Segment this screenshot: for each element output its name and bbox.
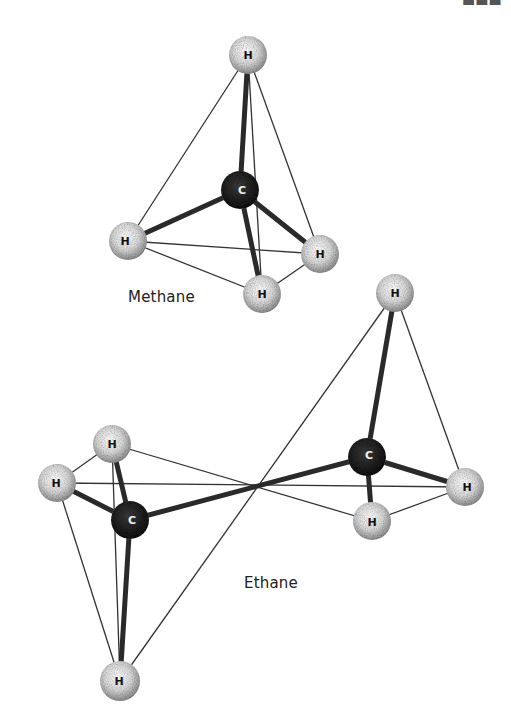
hydrogen-atom: H	[353, 502, 391, 540]
svg-text:H: H	[390, 287, 399, 300]
svg-text:C: C	[238, 184, 246, 197]
svg-text:H: H	[107, 438, 116, 451]
methane-label: Methane	[128, 288, 195, 306]
hydrogen-atom: H	[100, 661, 140, 701]
ethane-label: Ethane	[244, 574, 298, 592]
methane-molecule: C H H H H	[109, 36, 339, 313]
carbon-atom: C	[221, 171, 259, 209]
svg-text:H: H	[120, 235, 129, 248]
methane-atoms: C H H H H	[109, 36, 339, 313]
svg-text:C: C	[128, 514, 136, 527]
svg-text:H: H	[51, 477, 60, 490]
molecule-diagram: C H H H H	[0, 0, 511, 725]
svg-text:H: H	[462, 481, 471, 494]
svg-text:H: H	[257, 288, 266, 301]
methane-tetrahedron-edges	[128, 55, 320, 294]
hydrogen-atom: H	[109, 222, 147, 260]
svg-text:H: H	[243, 49, 252, 62]
svg-text:H: H	[114, 675, 123, 688]
carbon-atom: C	[348, 438, 386, 476]
hydrogen-atom: H	[376, 274, 414, 312]
hydrogen-atom: H	[301, 235, 339, 273]
svg-text:C: C	[365, 449, 373, 462]
svg-text:H: H	[315, 248, 324, 261]
hydrogen-atom: H	[38, 464, 76, 502]
svg-text:H: H	[367, 516, 376, 529]
carbon-atom: C	[111, 501, 149, 539]
hydrogen-atom: H	[446, 468, 484, 506]
hydrogen-atom: H	[243, 275, 281, 313]
hydrogen-atom: H	[229, 36, 267, 74]
hydrogen-atom: H	[93, 425, 131, 463]
ethane-molecule: C C H H H H H	[38, 274, 484, 701]
